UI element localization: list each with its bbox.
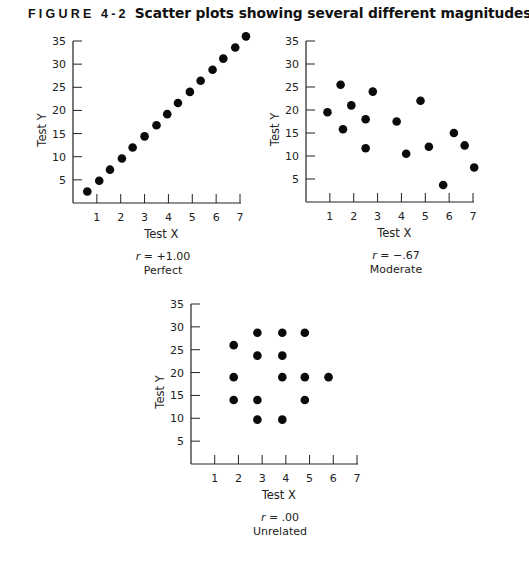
data-point: [361, 115, 370, 124]
data-point: [336, 80, 345, 89]
data-point: [95, 176, 104, 185]
data-point: [83, 187, 92, 196]
data-point: [416, 97, 425, 106]
x-tick-label: 6: [330, 472, 337, 485]
relationship-strength-label: Moderate: [370, 263, 423, 276]
data-point: [208, 65, 217, 74]
data-point: [128, 143, 137, 152]
data-point: [392, 117, 401, 126]
correlation-coefficient: r = −.67: [372, 249, 419, 262]
data-point: [278, 415, 287, 424]
data-point: [253, 351, 262, 360]
data-point: [152, 121, 161, 130]
scatter-plot-perfect: 51015202530351234567Test XTest Yr = +1.0…: [35, 32, 250, 277]
data-point: [278, 351, 287, 360]
y-tick-label: 10: [285, 150, 299, 163]
data-point: [301, 373, 310, 382]
data-point: [301, 396, 310, 405]
data-point: [361, 144, 370, 153]
data-point: [324, 373, 333, 382]
data-point: [106, 165, 115, 174]
x-axis-title: Test X: [261, 488, 296, 502]
data-point: [253, 415, 262, 424]
data-point: [229, 341, 238, 350]
scatter-plots-canvas: 51015202530351234567Test XTest Yr = +1.0…: [0, 0, 529, 563]
y-tick-label: 30: [285, 58, 299, 71]
y-tick-label: 5: [292, 173, 299, 186]
data-point: [253, 329, 262, 338]
y-tick-label: 5: [177, 435, 184, 448]
y-tick-label: 10: [52, 151, 66, 164]
data-point: [347, 101, 356, 110]
y-tick-label: 25: [170, 344, 184, 357]
data-point: [301, 329, 310, 338]
data-point: [229, 373, 238, 382]
y-tick-label: 5: [59, 174, 66, 187]
x-tick-label: 7: [354, 472, 361, 485]
y-tick-label: 30: [52, 58, 66, 71]
y-tick-label: 20: [170, 367, 184, 380]
x-tick-label: 4: [282, 472, 289, 485]
data-point: [229, 396, 238, 405]
y-tick-label: 35: [285, 35, 299, 48]
data-point: [174, 99, 183, 108]
x-tick-label: 3: [259, 472, 266, 485]
data-point: [196, 77, 205, 86]
relationship-strength-label: Perfect: [144, 264, 183, 277]
scatter-plot-unrelated: 51015202530351234567Test XTest Yr = .00U…: [153, 298, 361, 538]
x-tick-label: 4: [398, 210, 405, 223]
data-point: [219, 54, 228, 63]
x-tick-label: 3: [141, 211, 148, 224]
data-point: [231, 43, 240, 52]
data-point: [470, 163, 479, 172]
x-tick-label: 7: [470, 210, 477, 223]
x-tick-label: 1: [93, 211, 100, 224]
x-tick-label: 5: [306, 472, 313, 485]
data-point: [439, 181, 448, 190]
y-axis-title: Test Y: [268, 112, 282, 147]
data-point: [339, 125, 348, 134]
relationship-strength-label: Unrelated: [253, 525, 307, 538]
x-tick-label: 7: [237, 211, 244, 224]
y-tick-label: 10: [170, 412, 184, 425]
x-axis-title: Test X: [143, 227, 178, 241]
y-tick-label: 25: [285, 81, 299, 94]
data-point: [278, 329, 287, 338]
y-tick-label: 35: [52, 35, 66, 48]
data-point: [118, 154, 127, 163]
x-tick-label: 1: [326, 210, 333, 223]
x-tick-label: 5: [422, 210, 429, 223]
data-point: [140, 132, 149, 141]
x-axis-title: Test X: [376, 226, 411, 240]
scatter-plot-moderate: 51015202530351234567Test XTest Yr = −.67…: [268, 35, 478, 276]
y-tick-label: 35: [170, 298, 184, 311]
x-tick-label: 3: [374, 210, 381, 223]
x-tick-label: 6: [446, 210, 453, 223]
data-point: [242, 32, 251, 41]
y-axis-title: Test Y: [35, 112, 49, 147]
correlation-coefficient: r = .00: [261, 511, 299, 524]
data-point: [186, 88, 195, 97]
x-tick-label: 2: [350, 210, 357, 223]
x-tick-label: 2: [117, 211, 124, 224]
data-point: [460, 141, 469, 150]
data-point: [369, 87, 378, 96]
x-tick-label: 4: [165, 211, 172, 224]
x-tick-label: 2: [235, 472, 242, 485]
x-tick-label: 1: [211, 472, 218, 485]
y-tick-label: 15: [285, 127, 299, 140]
y-tick-label: 25: [52, 81, 66, 94]
correlation-coefficient: r = +1.00: [136, 250, 190, 263]
data-point: [450, 129, 459, 138]
y-tick-label: 20: [52, 104, 66, 117]
data-point: [163, 110, 172, 119]
data-point: [278, 373, 287, 382]
y-tick-label: 15: [170, 389, 184, 402]
data-point: [323, 108, 332, 117]
y-axis-title: Test Y: [153, 374, 167, 409]
y-tick-label: 15: [52, 128, 66, 141]
y-tick-label: 20: [285, 104, 299, 117]
data-point: [402, 149, 411, 158]
y-tick-label: 30: [170, 321, 184, 334]
data-point: [425, 143, 434, 152]
